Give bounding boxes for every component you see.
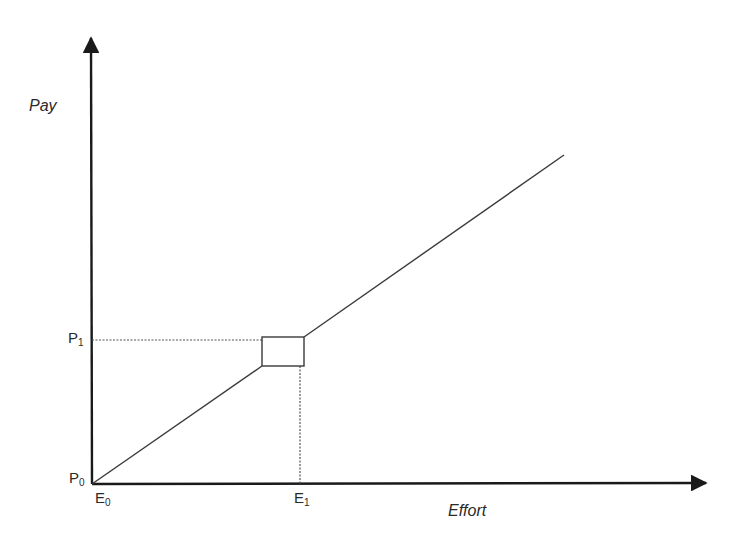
y-axis: [91, 38, 92, 484]
x-axis: [92, 483, 706, 484]
x-axis-label: Effort: [448, 503, 486, 519]
pay-line-low-segment: [92, 366, 262, 484]
bonus-step-box: [262, 337, 304, 366]
tick-label-p0: P0: [69, 470, 85, 488]
tick-label-p1: P1: [68, 330, 84, 348]
pay-effort-diagram: Pay Effort P1 P0 E0 E1: [0, 0, 731, 543]
y-axis-label: Pay: [29, 98, 57, 114]
diagram-canvas: [0, 0, 731, 543]
pay-line-high-segment: [304, 155, 564, 337]
tick-label-e1: E1: [294, 490, 310, 508]
tick-label-e0: E0: [95, 490, 111, 508]
